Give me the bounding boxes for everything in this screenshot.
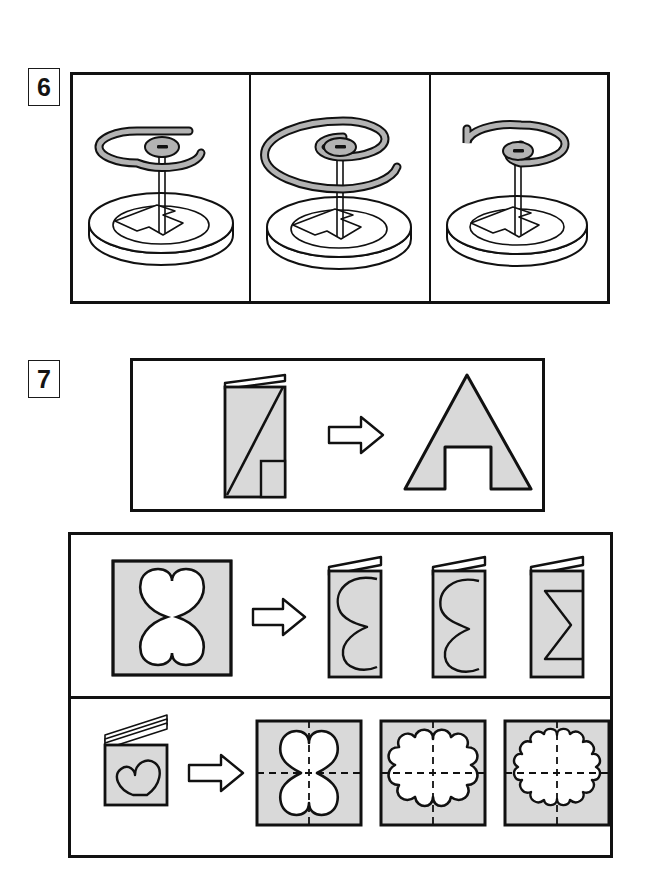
question-7-row-butterfly [71,535,610,696]
question-7-row-heart [71,699,610,855]
question-number-6-label: 6 [37,75,51,100]
question-7-options-frame [68,532,613,858]
coil-assembly-1 [79,105,243,285]
coil-assembly-3 [437,103,601,285]
coil-assembly-2 [257,97,423,287]
question-6-panel-group [70,72,610,304]
worksheet-page: 6 [0,0,652,896]
option-folded-sheet-zigzag[interactable] [531,557,583,677]
butterfly-row-illustration [71,535,610,693]
option-folded-sheet-kidney-curve-b[interactable] [433,557,485,677]
question-number-6: 6 [28,68,60,106]
right-arrow-icon [253,599,305,635]
option-square-8-petal-flower[interactable] [381,721,485,825]
question-6-panel-3[interactable] [431,75,607,301]
right-arrow-icon [189,755,243,791]
coil-hub-slot-2 [335,145,346,149]
example-illustration [133,361,542,509]
question-number-7: 7 [28,360,60,398]
coil-hub-slot-1 [157,145,168,149]
question-7-example-row [130,358,545,512]
coil-hub-slot-3 [513,149,524,153]
option-square-12-petal-flower[interactable] [505,721,609,825]
square-with-four-petal-cutout[interactable] [113,561,231,675]
heart-row-illustration [71,699,610,855]
arch-triangle-with-rectangular-notch [405,375,531,489]
folded-sheet-with-diagonal-cut [225,375,285,497]
folded-booklet-with-heart[interactable] [105,715,167,805]
option-square-4-petal-flower[interactable] [257,721,361,825]
right-arrow-icon [329,417,383,453]
sheet-rect-notch [261,461,285,497]
option-folded-sheet-kidney-curve-a[interactable] [329,557,381,677]
question-6-panel-1[interactable] [73,75,249,301]
question-number-7-label: 7 [37,367,51,392]
question-6-panel-2[interactable] [251,75,429,301]
